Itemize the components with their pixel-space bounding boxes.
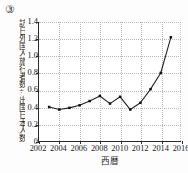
data-point-marker [78, 104, 80, 106]
data-point-marker [109, 102, 111, 104]
data-point-marker [149, 88, 151, 90]
data-point-marker [139, 102, 141, 104]
data-point-marker [119, 96, 121, 98]
data-point-marker [159, 72, 161, 74]
series-markers [48, 36, 172, 111]
item-number-badge: ③ [3, 2, 17, 16]
data-point-marker [88, 100, 90, 102]
chart-figure: ③ 訪日外国人旅行者数÷出国日本人数 00.20.40.60.81.01.21.… [0, 0, 188, 173]
data-point-marker [48, 106, 50, 108]
data-point-marker [68, 107, 70, 109]
x-tick-label: 2016 [166, 144, 188, 153]
plot-area [38, 22, 181, 142]
data-point-marker [58, 108, 60, 110]
data-series-line [39, 22, 181, 141]
data-point-marker [99, 95, 101, 97]
x-axis-tick-labels: 20022004200620082010201220142016 [38, 144, 181, 156]
data-point-marker [170, 36, 172, 38]
data-point-marker [129, 108, 131, 110]
x-axis-title: 西暦 [38, 156, 181, 166]
series-polyline [49, 37, 171, 109]
